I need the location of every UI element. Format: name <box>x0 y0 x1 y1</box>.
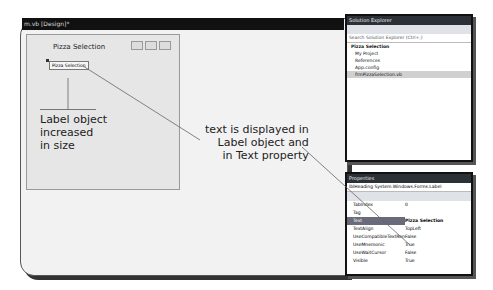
callout-leader-lines <box>0 0 493 290</box>
